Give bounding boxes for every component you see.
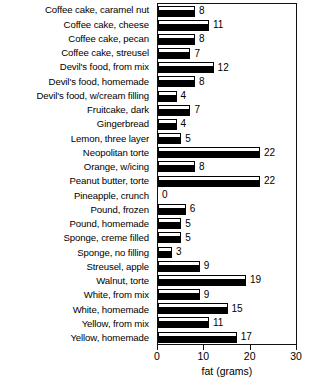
bar-segment-dark (158, 237, 181, 243)
bar-segment-dark (158, 294, 200, 300)
bar-row: 5 (158, 231, 297, 245)
bar-row: 17 (158, 330, 297, 344)
bar-row: 4 (158, 117, 297, 131)
bar-value-label: 5 (185, 134, 191, 144)
bar-segment-dark (158, 11, 195, 17)
category-label: Neopolitan torte (0, 146, 153, 160)
bar-value-label: 7 (194, 49, 200, 59)
category-label: Lemon, three layer (0, 131, 153, 145)
bar-row: 9 (158, 287, 297, 301)
bar-row: 5 (158, 132, 297, 146)
bar-row: 8 (158, 4, 297, 18)
bar-value-label: 11 (213, 318, 223, 328)
bar: 8 (158, 6, 195, 17)
bar-value-label: 8 (199, 77, 205, 87)
category-label: Devil's food, homemade (0, 74, 153, 88)
bar-value-label: 22 (264, 176, 275, 186)
bar-segment-dark (158, 209, 186, 215)
bar-value-label: 8 (199, 34, 205, 44)
bar: 6 (158, 204, 186, 215)
bar: 8 (158, 34, 195, 45)
bar-value-label: 4 (181, 91, 187, 101)
bar-segment-dark (158, 252, 172, 258)
category-label: White, from mix (0, 288, 153, 302)
bar-row: 5 (158, 217, 297, 231)
bar: 8 (158, 76, 195, 87)
x-axis-tick-labels: 0102030 (157, 351, 297, 364)
category-label: Fruitcake, dark (0, 103, 153, 117)
bar: 17 (158, 332, 237, 343)
category-label: Sponge, no filling (0, 245, 153, 259)
bar-segment-dark (158, 124, 177, 130)
bar: 4 (158, 119, 177, 130)
bars-layer: 81187128474522822065539199151117 (158, 4, 297, 344)
bar: 11 (158, 20, 209, 31)
bar-row: 8 (158, 160, 297, 174)
category-label: Pound, frozen (0, 203, 153, 217)
x-tick-label: 10 (197, 351, 209, 362)
bar-segment-dark (158, 223, 181, 229)
bar-row: 7 (158, 103, 297, 117)
bar-segment-dark (158, 266, 200, 272)
bar-segment-dark (158, 39, 195, 45)
bar-row: 15 (158, 302, 297, 316)
bar: 9 (158, 289, 200, 300)
bar-segment-dark (158, 96, 177, 102)
bar-row: 11 (158, 316, 297, 330)
bar-value-label: 15 (232, 304, 243, 314)
bar-segment-dark (158, 308, 228, 314)
bar: 22 (158, 147, 260, 158)
bar-value-label: 12 (218, 63, 229, 73)
bar-row: 9 (158, 259, 297, 273)
bar: 7 (158, 48, 190, 59)
bar-segment-dark (158, 67, 214, 73)
bar-segment-dark (158, 81, 195, 87)
bar-value-label: 22 (264, 148, 275, 158)
category-label: Gingerbread (0, 117, 153, 131)
bar: 3 (158, 247, 172, 258)
bar: 7 (158, 105, 190, 116)
bar-row: 8 (158, 32, 297, 46)
category-label: Pound, homemade (0, 217, 153, 231)
category-label: Coffee cake, cheese (0, 17, 153, 31)
category-label: Yellow, from mix (0, 317, 153, 331)
bar-segment-dark (158, 25, 209, 31)
category-label: Sponge, creme filled (0, 231, 153, 245)
bar-value-label: 4 (181, 119, 187, 129)
bar-value-label: 19 (250, 275, 261, 285)
bar-row: 4 (158, 89, 297, 103)
category-label: Coffee cake, streusel (0, 46, 153, 60)
bar-value-label: 7 (194, 105, 200, 115)
bar: 15 (158, 303, 228, 314)
bar-row: 0 (158, 188, 297, 202)
bar-value-label: 0 (162, 190, 168, 200)
category-label: Walnut, torte (0, 274, 153, 288)
bar-row: 8 (158, 75, 297, 89)
bar-segment-dark (158, 166, 195, 172)
bar-row: 3 (158, 245, 297, 259)
bar-segment-dark (158, 181, 260, 187)
bar-segment-dark (158, 337, 237, 343)
category-label: Devil's food, w/cream filling (0, 89, 153, 103)
bar-value-label: 6 (190, 204, 196, 214)
x-tick-label: 0 (154, 351, 160, 362)
bar-row: 19 (158, 273, 297, 287)
bar: 11 (158, 317, 209, 328)
category-axis: Coffee cake, caramel nutCoffee cake, che… (0, 3, 153, 345)
bar-value-label: 9 (204, 290, 210, 300)
bar-value-label: 3 (176, 247, 182, 257)
bar-value-label: 11 (213, 20, 223, 30)
x-tick-label: 30 (290, 351, 302, 362)
bar-value-label: 9 (204, 261, 210, 271)
fat-grams-bar-chart: Coffee cake, caramel nutCoffee cake, che… (0, 0, 314, 384)
bar-segment-dark (158, 53, 190, 59)
bar: 5 (158, 218, 181, 229)
x-tick-label: 20 (244, 351, 256, 362)
bar-value-label: 5 (185, 233, 191, 243)
bar-row: 12 (158, 61, 297, 75)
bar-row: 22 (158, 174, 297, 188)
bar-value-label: 8 (199, 162, 205, 172)
category-label: Coffee cake, pecan (0, 32, 153, 46)
bar: 4 (158, 91, 177, 102)
bar-segment-dark (158, 152, 260, 158)
